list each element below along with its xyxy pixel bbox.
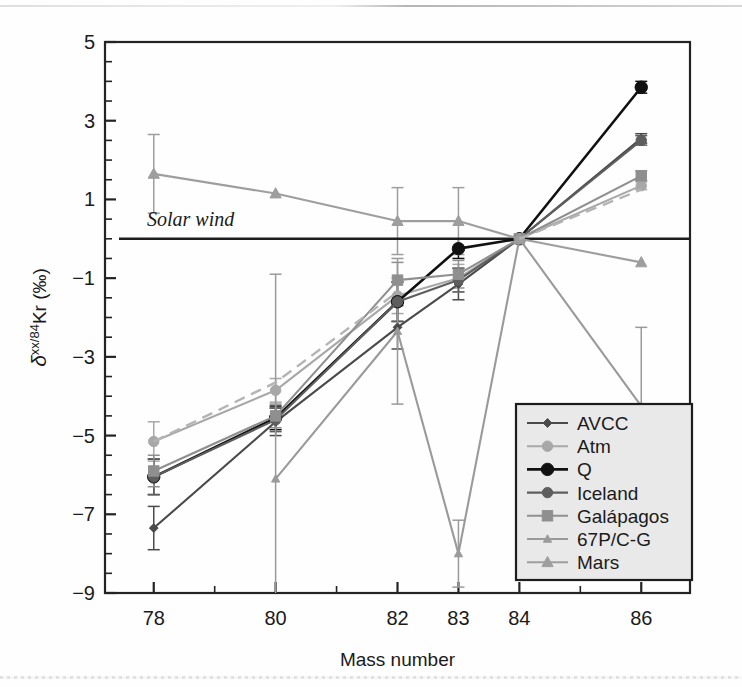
y-tick-label: −9 <box>72 582 95 604</box>
y-tick-label: −5 <box>72 425 95 447</box>
solar-wind-label: Solar wind <box>147 208 235 230</box>
data-point-marker <box>542 487 552 497</box>
svg-text:δxx/84Kr (‰): δxx/84Kr (‰) <box>27 268 51 367</box>
y-tick-label: 1 <box>84 188 95 210</box>
data-point-marker <box>149 466 159 476</box>
y-tick-label: −1 <box>72 267 95 289</box>
data-point-marker <box>635 81 647 93</box>
legend-label: Q <box>577 459 592 480</box>
data-point-marker <box>541 463 553 475</box>
data-point-marker <box>636 180 646 190</box>
data-point-marker <box>270 411 280 421</box>
y-tick-label: −3 <box>72 346 95 368</box>
x-tick-label: 80 <box>265 607 287 629</box>
legend-label: Atm <box>577 436 611 457</box>
x-tick-label: 86 <box>630 607 652 629</box>
y-tick-label: −7 <box>72 503 95 525</box>
data-point-marker <box>148 168 159 178</box>
x-tick-label: 83 <box>447 607 469 629</box>
data-point-marker <box>452 242 464 254</box>
legend-label: AVCC <box>577 413 628 434</box>
x-tick-label: 78 <box>143 607 165 629</box>
data-point-marker <box>636 171 646 181</box>
data-point-marker <box>454 549 462 556</box>
chart-legend[interactable]: AVCCAtmQIcelandGalápagos67P/C-GMars <box>516 404 692 580</box>
x-tick-label: 84 <box>508 607 530 629</box>
data-point-marker <box>453 269 463 279</box>
data-point-marker <box>542 441 552 451</box>
legend-label: Galápagos <box>577 506 669 527</box>
legend-label: 67P/C-G <box>577 529 651 550</box>
data-point-marker <box>392 275 402 285</box>
y-axis-title: δxx/84Kr (‰) <box>27 268 51 367</box>
data-point-marker <box>270 385 280 395</box>
legend-label: Mars <box>577 552 619 573</box>
data-point-marker <box>392 297 402 307</box>
data-point-marker <box>636 135 646 145</box>
y-tick-label: 3 <box>84 110 95 132</box>
x-axis-title: Mass number <box>340 649 456 670</box>
legend-label: Iceland <box>577 483 638 504</box>
x-tick-label: 82 <box>386 607 408 629</box>
y-tick-label: 5 <box>84 31 95 53</box>
krypton-isotope-chart: 531−1−3−5−7−9788082838486Mass numberδxx/… <box>0 0 742 687</box>
figure-container: 531−1−3−5−7−9788082838486Mass numberδxx/… <box>0 0 742 687</box>
data-point-marker <box>542 511 552 521</box>
